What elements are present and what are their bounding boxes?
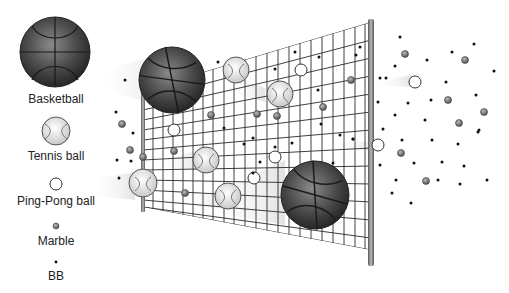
sieve-net-illustration (0, 0, 509, 293)
basketball-icon (20, 17, 90, 87)
legend-label-bb: BB (0, 269, 116, 283)
bb-icon (55, 261, 58, 264)
ping-pong-ball-icon (50, 178, 62, 190)
marble-icon (53, 223, 59, 229)
legend-label-basketball: Basketball (0, 92, 116, 106)
legend-label-marble: Marble (0, 234, 116, 248)
basketball (277, 157, 354, 234)
legend-label-tennis-ball: Tennis ball (0, 149, 116, 163)
legend-label-ping-pong-ball: Ping-Pong ball (0, 194, 116, 208)
basketball (139, 47, 205, 113)
tennis-ball-icon (42, 117, 70, 145)
legend (20, 17, 90, 263)
motion-trails (90, 55, 412, 225)
